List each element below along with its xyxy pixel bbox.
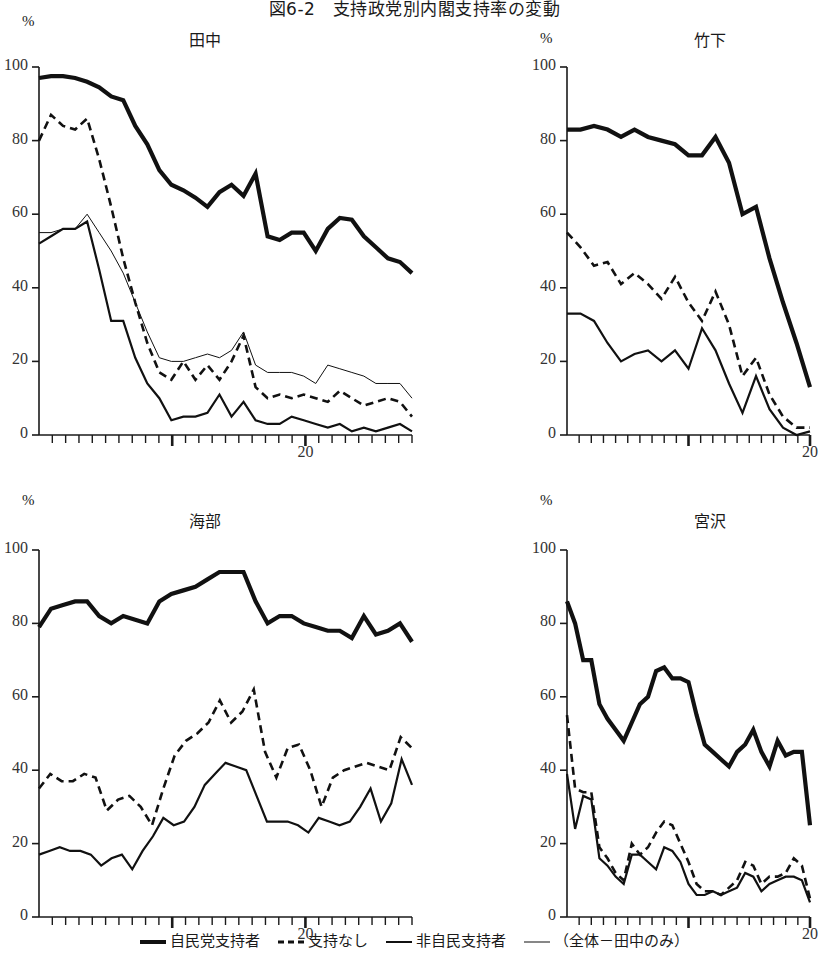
y-tick-label: 40: [0, 759, 28, 777]
y-tick-label: 60: [514, 686, 556, 704]
y-tick-label: 80: [0, 612, 28, 630]
y-tick-label: 0: [0, 424, 28, 442]
legend-item: 非自民支持者: [386, 934, 506, 949]
legend: 自民党支持者支持なし非自民支持者（全体－田中のみ）: [0, 934, 829, 949]
legend-item-label: （全体－田中のみ）: [554, 934, 689, 949]
panel-title: 竹下: [670, 27, 750, 51]
y-tick-label: 40: [514, 759, 556, 777]
y-tick-label: 20: [514, 350, 556, 368]
legend-line-icon: [386, 937, 412, 947]
y-tick-label: 100: [0, 539, 28, 557]
y-axis-unit-label: %: [540, 30, 553, 47]
panel-title: 田中: [165, 27, 245, 51]
legend-item: （全体－田中のみ）: [524, 934, 689, 949]
panel-title: 宮沢: [670, 508, 750, 532]
y-tick-label: 40: [514, 277, 556, 295]
series-line: [567, 601, 810, 825]
y-tick-label: 60: [0, 203, 28, 221]
y-tick-label: 0: [0, 906, 28, 924]
series-line: [567, 715, 810, 899]
y-tick-label: 100: [514, 539, 556, 557]
y-tick-label: 80: [514, 130, 556, 148]
y-tick-label: 60: [0, 686, 28, 704]
y-tick-label: 100: [514, 56, 556, 74]
y-axis-unit-label: %: [22, 492, 35, 509]
legend-item: 自民党支持者: [140, 934, 260, 949]
legend-item-label: 非自民支持者: [416, 934, 506, 949]
x-tick-label: 20: [790, 443, 829, 461]
y-tick-label: 20: [0, 350, 28, 368]
y-tick-label: 100: [0, 56, 28, 74]
panel-title: 海部: [165, 508, 245, 532]
series-line: [567, 774, 810, 902]
y-tick-label: 0: [514, 906, 556, 924]
y-tick-label: 20: [0, 833, 28, 851]
y-tick-label: 0: [514, 424, 556, 442]
legend-line-icon: [524, 937, 550, 947]
y-tick-label: 60: [514, 203, 556, 221]
y-tick-label: 20: [514, 833, 556, 851]
x-tick-label: 20: [285, 443, 325, 461]
y-tick-label: 40: [0, 277, 28, 295]
plot-area: [0, 0, 829, 964]
y-tick-label: 80: [0, 130, 28, 148]
y-tick-label: 80: [514, 612, 556, 630]
y-axis-unit-label: %: [22, 13, 35, 30]
y-axis-unit-label: %: [540, 492, 553, 509]
x-tick-label: 20: [790, 925, 829, 943]
chart-panel-miyazawa: [0, 0, 829, 964]
legend-line-icon: [140, 937, 166, 947]
legend-item-label: 自民党支持者: [170, 934, 260, 949]
x-tick-label: 20: [285, 925, 325, 943]
